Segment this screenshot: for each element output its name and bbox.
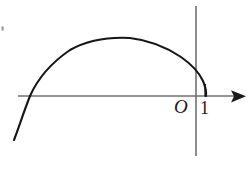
figure-canvas <box>0 0 249 173</box>
x-tick-label-one: 1 <box>200 99 209 117</box>
scan-speck <box>2 27 4 31</box>
origin-label: O <box>174 97 188 116</box>
plotted-curve <box>14 38 206 140</box>
math-figure: O 1 <box>0 0 249 173</box>
